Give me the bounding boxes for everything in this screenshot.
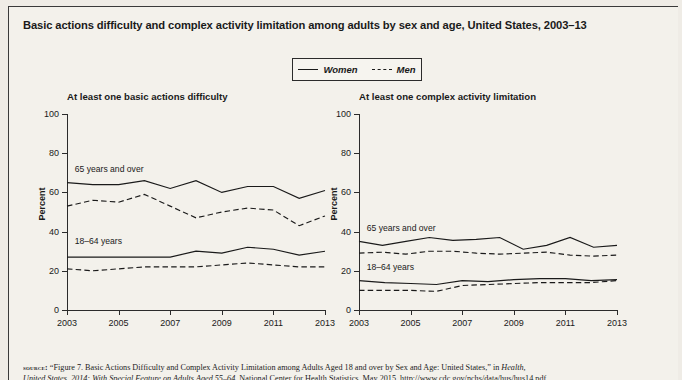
x-axis-tick-label: 2005 [109, 318, 129, 328]
y-axis-tick-label: 20 [49, 266, 59, 276]
source-line-1: source: “Figure 7. Basic Actions Difficu… [23, 363, 672, 374]
x-axis-tick [514, 310, 515, 315]
x-axis-tick [273, 310, 274, 315]
y-axis-tick-label: 40 [49, 227, 59, 237]
source-text-2: , National Center for Health Statistics,… [235, 374, 546, 380]
series-line [67, 194, 325, 225]
series-line [359, 251, 617, 256]
chart-subtitle-left: At least one basic actions difficulty [67, 91, 227, 102]
y-axis-tick-label: 100 [336, 109, 351, 119]
series-annotation-label: 65 years and over [367, 223, 436, 233]
figure-panel: Basic actions difficulty and complex act… [8, 6, 678, 380]
chart-basic-actions-difficulty: At least one basic actions difficulty Pe… [57, 91, 357, 351]
x-axis-tick-label: 2009 [504, 318, 524, 328]
series-line [359, 237, 617, 249]
x-axis-tick [617, 310, 618, 315]
legend-line-dashed-icon [372, 69, 392, 70]
series-annotation-label: 18–64 years [367, 262, 414, 272]
x-axis-line-left [67, 310, 325, 311]
x-axis-line-right [359, 310, 617, 311]
series-lines [359, 114, 617, 310]
source-text-1: “Figure 7. Basic Actions Difficulty and … [50, 363, 501, 372]
x-axis-tick-label: 2011 [264, 318, 283, 328]
legend-item-men: Men [372, 64, 416, 75]
x-axis-tick [462, 310, 463, 315]
y-axis-title-right: Percent [329, 187, 339, 220]
chart-complex-activity-limitation: At least one complex activity limitation… [349, 91, 649, 351]
page-title: Basic actions difficulty and complex act… [23, 19, 587, 31]
series-line [67, 247, 325, 257]
x-axis-tick [325, 310, 326, 315]
y-axis-tick-label: 0 [346, 305, 351, 315]
y-axis-tick-label: 100 [44, 109, 59, 119]
series-line [67, 181, 325, 199]
x-axis-tick [119, 310, 120, 315]
source-note: source: “Figure 7. Basic Actions Difficu… [23, 363, 672, 380]
chart-legend: Women Men [292, 58, 422, 81]
series-lines [67, 114, 325, 310]
source-italic-1: Health, [501, 363, 525, 372]
series-annotation-label: 65 years and over [75, 164, 144, 174]
x-axis-tick-label: 2009 [212, 318, 232, 328]
x-axis-tick-label: 2003 [57, 318, 77, 328]
y-axis-tick-label: 60 [341, 187, 351, 197]
series-line [359, 279, 617, 285]
legend-item-women: Women [298, 64, 357, 75]
x-axis-tick-label: 2005 [401, 318, 421, 328]
x-axis-tick [170, 310, 171, 315]
x-axis-tick-label: 2013 [315, 318, 335, 328]
x-axis-tick-label: 2007 [160, 318, 180, 328]
y-axis-tick-label: 20 [341, 266, 351, 276]
series-annotation-label: 18–64 years [75, 236, 122, 246]
x-axis-tick [359, 310, 360, 315]
plot-area-right: 02040608010020032005200720092011201365 y… [359, 114, 617, 310]
x-axis-tick-label: 2003 [349, 318, 369, 328]
y-axis-tick-label: 60 [49, 187, 59, 197]
y-axis-tick-label: 40 [341, 227, 351, 237]
y-axis-tick-label: 80 [341, 148, 351, 158]
x-axis-tick [67, 310, 68, 315]
x-axis-tick [411, 310, 412, 315]
plot-area-left: 02040608010020032005200720092011201365 y… [67, 114, 325, 310]
x-axis-tick-label: 2013 [607, 318, 627, 328]
x-axis-tick-label: 2011 [556, 318, 575, 328]
legend-label-men: Men [397, 64, 416, 75]
x-axis-tick [222, 310, 223, 315]
chart-subtitle-right: At least one complex activity limitation [359, 91, 536, 102]
series-line [67, 263, 325, 271]
source-italic-2: United States, 2014: With Special Featur… [23, 374, 235, 380]
y-axis-tick-label: 80 [49, 148, 59, 158]
series-line [359, 281, 617, 292]
source-line-2: United States, 2014: With Special Featur… [23, 374, 672, 380]
figure-page: Basic actions difficulty and complex act… [0, 0, 682, 380]
x-axis-tick-label: 2007 [452, 318, 472, 328]
source-label: source: [23, 363, 48, 372]
x-axis-tick [565, 310, 566, 315]
y-axis-tick-label: 0 [54, 305, 59, 315]
legend-line-solid-icon [298, 69, 318, 70]
legend-label-women: Women [323, 64, 357, 75]
y-axis-title-left: Percent [37, 187, 47, 220]
